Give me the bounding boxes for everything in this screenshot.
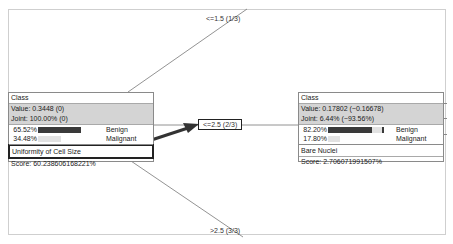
connector-tick-1	[444, 103, 447, 104]
child-malignant-pct: 17.80%	[299, 134, 327, 143]
root-value: Value: 0.3448 (0)	[9, 104, 153, 115]
root-malignant-label: Malignant	[106, 134, 136, 143]
child-class-label: Class	[299, 93, 443, 104]
root-benign-pct: 65.52%	[9, 125, 37, 134]
root-class-label: Class	[9, 93, 153, 104]
root-dist-row-benign: 65.52% Benign	[9, 125, 153, 134]
edge-label-2[interactable]: <=2.5 (2/3)	[198, 119, 242, 130]
child-benign-label: Benign	[396, 125, 418, 134]
root-joint: Joint: 100.00% (0)	[9, 114, 153, 125]
child-distribution: 82.20% Benign 17.80% Malignant	[299, 125, 443, 145]
root-dist-row-malignant: 34.48% Malignant	[9, 134, 153, 143]
child-dist-row-benign: 82.20% Benign	[299, 125, 443, 134]
connector-tick-3	[444, 134, 447, 135]
child-score: Score: 2.706071991507%	[299, 157, 443, 167]
root-benign-bar	[38, 127, 81, 133]
root-score: Score: 60.238606168221%	[9, 159, 153, 169]
child-dist-row-malignant: 17.80% Malignant	[299, 134, 443, 143]
edge-label-3[interactable]: >2.5 (3/3)	[210, 227, 240, 234]
child-benign-pct: 82.20%	[299, 125, 327, 134]
child-malignant-bar	[328, 136, 340, 142]
edge-label-1[interactable]: <=1.5 (1/3)	[206, 15, 240, 22]
connector-tick-2	[444, 118, 447, 119]
edge-line-3	[128, 159, 243, 237]
child-node[interactable]: Class Value: 0.17802 (−0.16678) Joint: 6…	[298, 92, 444, 162]
child-value: Value: 0.17802 (−0.16678)	[299, 104, 443, 115]
child-benign-bar	[328, 127, 384, 133]
root-distribution: 65.52% Benign 34.48% Malignant	[9, 125, 153, 145]
root-node[interactable]: Class Value: 0.3448 (0) Joint: 100.00% (…	[8, 92, 154, 162]
child-joint: Joint: 6.44% (−93.56%)	[299, 114, 443, 125]
child-malignant-label: Malignant	[396, 134, 426, 143]
root-benign-label: Benign	[106, 125, 128, 134]
root-malignant-bar	[38, 136, 61, 142]
child-split-attribute[interactable]: Bare Nuclei	[299, 145, 443, 157]
root-malignant-pct: 34.48%	[9, 134, 37, 143]
root-split-attribute[interactable]: Uniformity of Cell Size	[8, 144, 154, 159]
